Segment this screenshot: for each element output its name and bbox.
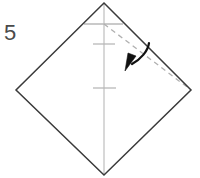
dashed-fold-line (104, 24, 191, 90)
origami-step-figure: 5 (0, 0, 200, 178)
figure-canvas (0, 0, 200, 178)
curved-fold-arrow (125, 43, 149, 71)
